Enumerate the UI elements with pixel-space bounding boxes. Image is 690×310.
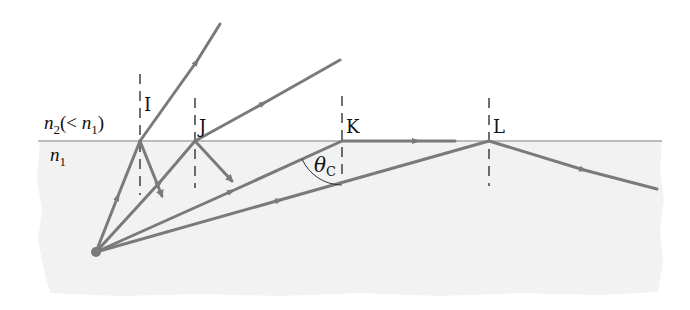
light-source-point — [91, 247, 101, 257]
total-internal-reflection-diagram: θC I J K L n2(< n1) n1 — [0, 0, 690, 310]
upper-medium-label: n2(< n1) — [44, 112, 104, 137]
point-label-I: I — [144, 94, 151, 115]
point-label-J: J — [197, 116, 206, 137]
point-label-K: K — [346, 116, 360, 137]
refracted-ray-I — [140, 24, 220, 141]
refracted-ray-J — [195, 60, 340, 141]
point-label-L: L — [493, 116, 505, 137]
